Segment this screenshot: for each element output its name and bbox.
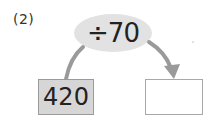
arrowhead-icon: [164, 64, 180, 79]
operation-text: ÷70: [74, 14, 152, 52]
input-box: 420: [38, 79, 94, 115]
speck: [192, 41, 194, 43]
right-arrow-arc: [149, 42, 171, 68]
answer-box[interactable]: [145, 79, 203, 115]
input-value: 420: [43, 83, 89, 111]
